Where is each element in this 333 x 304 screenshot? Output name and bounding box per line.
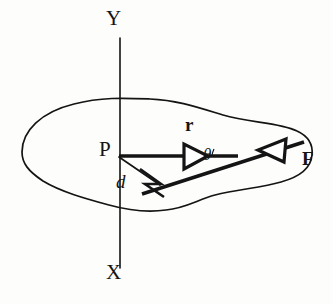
axis-label-y: Y [106, 8, 121, 29]
r-vector-label: r [185, 115, 193, 134]
point-label-p: P [99, 139, 111, 160]
torque-diagram-figure: Y X P F r d θ [0, 0, 333, 304]
force-vector-arrowhead-icon [258, 139, 286, 162]
force-vector-label-f: F [302, 149, 314, 168]
angle-label-theta: θ [203, 146, 211, 163]
axis-label-x: X [106, 262, 121, 283]
diagram-canvas [0, 0, 333, 304]
moment-arm-label-d: d [116, 172, 126, 191]
